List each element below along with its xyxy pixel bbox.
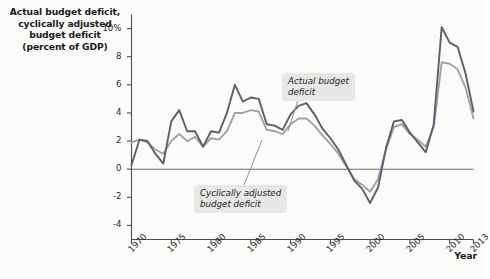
y-tick-label: -2 (92, 191, 122, 201)
y-tick-label: -4 (92, 219, 122, 229)
y-tick-label: 8 (92, 51, 122, 61)
y-tick-label: 0 (92, 163, 122, 173)
leader-line-actual (288, 97, 299, 131)
y-tick-label: 6 (92, 79, 122, 89)
leader-line-cyclical (244, 140, 262, 185)
axis-frame (132, 15, 474, 240)
y-tick-label: 2 (92, 135, 122, 145)
series-line-actual-budget-deficit (132, 27, 474, 203)
annotation-cyclically-adjusted-budget-deficit: Cyclically adjusted budget deficit (194, 185, 287, 213)
y-tick-label: 10% (92, 23, 122, 33)
annotation-actual-budget-deficit: Actual budget deficit (282, 73, 355, 101)
y-tick-label: 4 (92, 107, 122, 117)
